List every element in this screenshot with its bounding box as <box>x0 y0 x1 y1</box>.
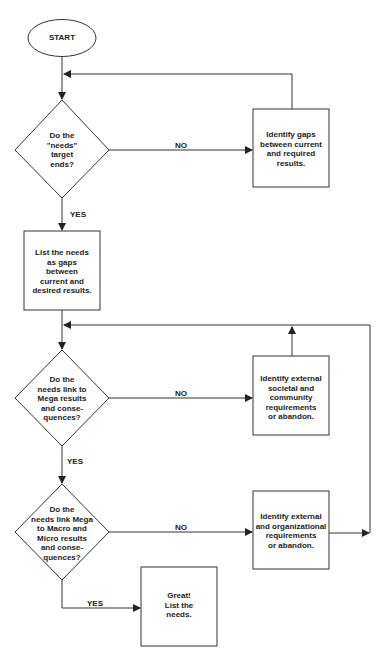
flowchart-canvas <box>0 0 384 662</box>
process-p4-label: Identify external and organizational req… <box>249 512 333 550</box>
decision-d3-label: Do the needs link Mega to Macro and Micr… <box>14 505 110 562</box>
edge-label-d1-yes: YES <box>70 210 86 219</box>
start-label: START <box>28 33 96 43</box>
process-p1-label: Identify gaps between current and requir… <box>253 130 329 168</box>
edge-label-d1-no: NO <box>175 141 187 150</box>
edge-label-d2-yes: YES <box>67 457 83 466</box>
edge-label-d3-no: NO <box>175 523 187 532</box>
process-p5-label: Great! List the needs. <box>141 591 217 620</box>
edge-label-d3-yes: YES <box>87 599 103 608</box>
process-p2-label: List the needs as gaps between current a… <box>24 248 100 296</box>
edge-label-d2-no: NO <box>175 389 187 398</box>
decision-d2-label: Do the needs link to Mega results and co… <box>17 375 107 423</box>
decision-d1-label: Do the "needs" target ends? <box>22 131 102 169</box>
arrow-p1-loop <box>64 74 292 109</box>
process-p3-label: Identify external societal and community… <box>251 374 331 422</box>
